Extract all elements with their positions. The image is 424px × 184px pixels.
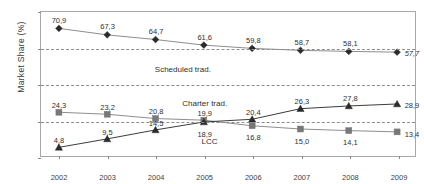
series-inline-label: Charter trad. [182, 98, 227, 107]
series-inline-label: LCC [202, 136, 218, 145]
plot-area: 0204060802002200320042005200620072008200… [40, 11, 416, 157]
y-axis-tick-mark [38, 158, 41, 159]
x-axis-tick-label: 2007 [282, 173, 322, 182]
x-axis-tick-label: 2009 [379, 173, 419, 182]
y-axis-tick-mark [38, 122, 41, 123]
x-axis-tick-mark [156, 156, 157, 159]
x-axis-tick-label: 2004 [136, 173, 176, 182]
data-point-marker [56, 25, 63, 32]
y-axis-tick-mark [38, 85, 41, 86]
data-point-marker [297, 126, 303, 132]
x-axis-tick-label: 2003 [88, 173, 128, 182]
x-axis-tick-mark [302, 156, 303, 159]
x-axis-tick-label: 2006 [233, 173, 273, 182]
series-layer [41, 12, 415, 156]
x-axis-tick-mark [399, 156, 400, 159]
y-axis-tick-mark [38, 12, 41, 13]
x-axis-tick-mark [350, 156, 351, 159]
data-point-marker [394, 49, 401, 56]
data-point-marker [104, 32, 111, 39]
series-inline-label: Scheduled trad. [155, 65, 211, 74]
data-point-marker [394, 129, 400, 135]
data-point-marker [56, 109, 62, 115]
x-axis-tick-label: 2005 [185, 173, 225, 182]
market-share-line-chart: Market Share (%) 02040608020022003200420… [0, 0, 424, 184]
data-point-marker [152, 36, 159, 43]
gridline [41, 49, 415, 50]
gridline [41, 122, 415, 123]
gridline [41, 85, 415, 86]
y-axis-title: Market Share (%) [16, 2, 26, 112]
data-point-marker [200, 42, 207, 49]
data-point-marker [249, 123, 255, 129]
x-axis-tick-mark [205, 156, 206, 159]
x-axis-tick-label: 2008 [330, 173, 370, 182]
x-axis-tick-mark [59, 156, 60, 159]
y-axis-tick-mark [38, 49, 41, 50]
data-point-marker [104, 111, 110, 117]
x-axis-tick-label: 2002 [39, 173, 79, 182]
x-axis-tick-mark [253, 156, 254, 159]
data-point-marker [346, 128, 352, 134]
x-axis-tick-mark [108, 156, 109, 159]
